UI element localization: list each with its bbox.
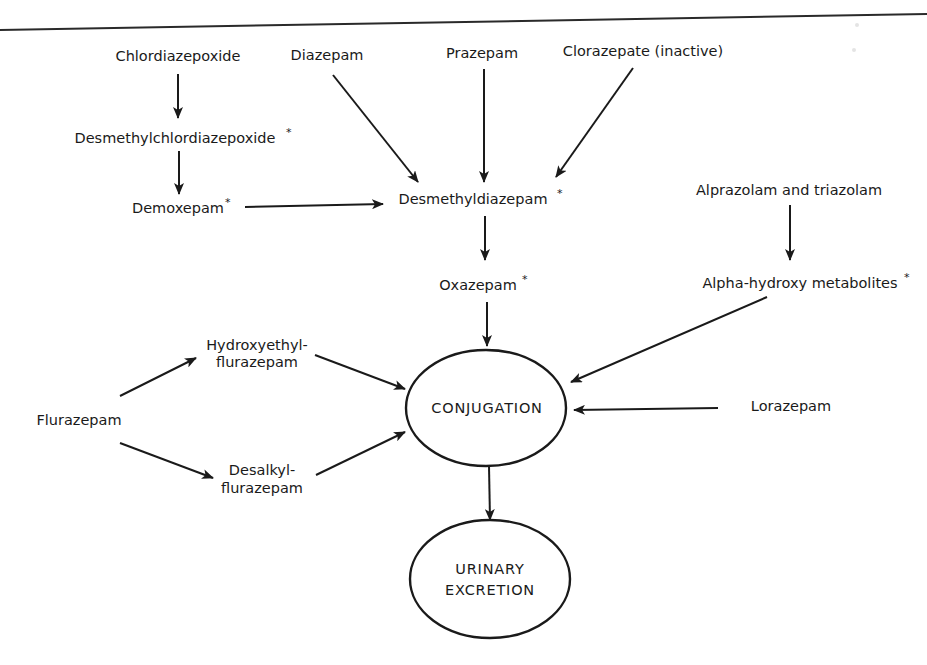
arrow-clorazepate-to-desmethyldiazepam (556, 68, 633, 177)
node-diazepam: Diazepam (291, 47, 364, 63)
metabolism-diagram: Chlordiazepoxide Desmethylchlordiazepoxi… (0, 0, 927, 665)
active-metabolite-marker: * (522, 273, 528, 286)
node-urinary-excretion: URINARY EXCRETION (410, 520, 570, 638)
node-label: Oxazepam (439, 277, 517, 293)
top-rule-divider (0, 14, 927, 30)
node-desmethyldiazepam: Desmethyldiazepam * (398, 187, 563, 207)
node-hydroxyethylflurazepam: Hydroxyethyl- flurazepam (206, 337, 308, 370)
node-lorazepam: Lorazepam (751, 398, 831, 414)
urinary-excretion-ellipse (410, 520, 570, 638)
node-label: CONJUGATION (431, 400, 543, 416)
node-label: Diazepam (291, 47, 364, 63)
node-label: Chlordiazepoxide (116, 48, 241, 64)
arrow-flurazepam-to-desalkylflurazepam (120, 443, 213, 478)
node-alprazolam-triazolam: Alprazolam and triazolam (696, 182, 882, 198)
node-flurazepam: Flurazepam (36, 412, 121, 428)
node-conjugation: CONJUGATION (406, 350, 566, 466)
node-label-line1: URINARY (455, 561, 524, 577)
node-label: Clorazepate (inactive) (563, 43, 723, 59)
active-metabolite-marker: * (904, 271, 910, 284)
arrow-alpha-hydroxy-to-conjugation (571, 297, 767, 382)
active-metabolite-marker: * (286, 126, 292, 139)
node-label: Prazepam (446, 45, 518, 61)
node-chlordiazepoxide: Chlordiazepoxide (116, 48, 241, 64)
node-label-line2: flurazepam (216, 354, 298, 370)
node-label: Flurazepam (36, 412, 121, 428)
node-clorazepate: Clorazepate (inactive) (563, 43, 723, 59)
node-label-line1: Desalkyl- (229, 462, 295, 478)
scan-artifact (852, 23, 859, 52)
node-label: Desmethyldiazepam (398, 191, 547, 207)
node-demoxepam: Demoxepam * (132, 196, 231, 216)
node-label-line1: Hydroxyethyl- (206, 337, 308, 353)
node-label: Lorazepam (751, 398, 831, 414)
node-label: Desmethylchlordiazepoxide (75, 130, 276, 146)
diagram-svg: Chlordiazepoxide Desmethylchlordiazepoxi… (0, 0, 927, 665)
node-label: Alpha-hydroxy metabolites (702, 275, 897, 291)
arrow-hydroxyethylflurazepam-to-conjugation (315, 355, 405, 389)
node-label: Alprazolam and triazolam (696, 182, 882, 198)
node-label: Demoxepam (132, 200, 224, 216)
arrow-diazepam-to-desmethyldiazepam (333, 75, 418, 182)
node-alpha-hydroxy-metabolites: Alpha-hydroxy metabolites * (702, 271, 910, 291)
node-desmethylchlordiazepoxide: Desmethylchlordiazepoxide * (75, 126, 292, 146)
arrow-demoxepam-to-desmethyldiazepam (245, 204, 383, 207)
active-metabolite-marker: * (225, 196, 231, 209)
active-metabolite-marker: * (557, 187, 563, 200)
node-label-line2: flurazepam (221, 480, 303, 496)
arrow-conjugation-to-urinary-excretion (489, 466, 490, 520)
arrow-flurazepam-to-hydroxyethylflurazepam (120, 358, 196, 396)
node-oxazepam: Oxazepam * (439, 273, 528, 293)
arrow-lorazepam-to-conjugation (574, 408, 718, 410)
node-label-line2: EXCRETION (445, 582, 535, 598)
node-prazepam: Prazepam (446, 45, 518, 61)
node-desalkylflurazepam: Desalkyl- flurazepam (221, 462, 303, 496)
arrow-desalkylflurazepam-to-conjugation (316, 432, 405, 475)
